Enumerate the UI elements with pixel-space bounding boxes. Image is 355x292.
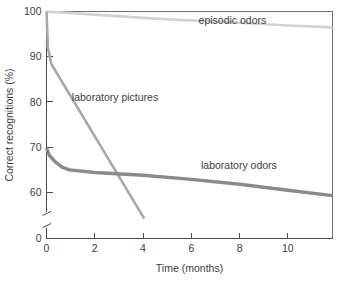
line-chart-canvas: 60708090100 0246810 0 episodic odorslabo…	[0, 0, 355, 292]
x-tick-label-10: 10	[282, 242, 294, 254]
x-axis-title: Time (months)	[156, 262, 223, 274]
series-label-episodic-odors: episodic odors	[199, 14, 267, 26]
y-tick-label-100: 100	[24, 5, 42, 17]
y-tick-label-60: 60	[30, 186, 42, 198]
y-tick-labels: 60708090100	[24, 5, 42, 198]
y-tick-label-90: 90	[30, 50, 42, 62]
series-line-laboratory-pictures	[47, 12, 145, 219]
x-tick-label-2: 2	[92, 242, 98, 254]
x-tick-label-4: 4	[140, 242, 146, 254]
series-line-episodic-odors	[47, 12, 333, 28]
x-tick-label-6: 6	[188, 242, 194, 254]
series-line-laboratory-odors	[47, 148, 333, 196]
series-label-laboratory-pictures: laboratory pictures	[72, 91, 158, 103]
x-tick-labels: 0246810	[44, 242, 294, 254]
y-origin-label: 0	[36, 232, 42, 244]
y-tick-label-80: 80	[30, 96, 42, 108]
y-axis-break-icon	[43, 212, 52, 228]
y-origin-tick-label: 0	[36, 232, 42, 244]
chart-figure: 60708090100 0246810 0 episodic odorslabo…	[0, 0, 355, 292]
y-tick-label-70: 70	[30, 141, 42, 153]
x-tick-marks	[95, 233, 288, 239]
series-label-laboratory-odors: laboratory odors	[201, 159, 277, 171]
x-tick-label-8: 8	[237, 242, 243, 254]
y-axis-title: Correct recognitions (%)	[3, 68, 15, 181]
data-series-lines	[47, 12, 333, 219]
x-tick-label-0: 0	[44, 242, 50, 254]
